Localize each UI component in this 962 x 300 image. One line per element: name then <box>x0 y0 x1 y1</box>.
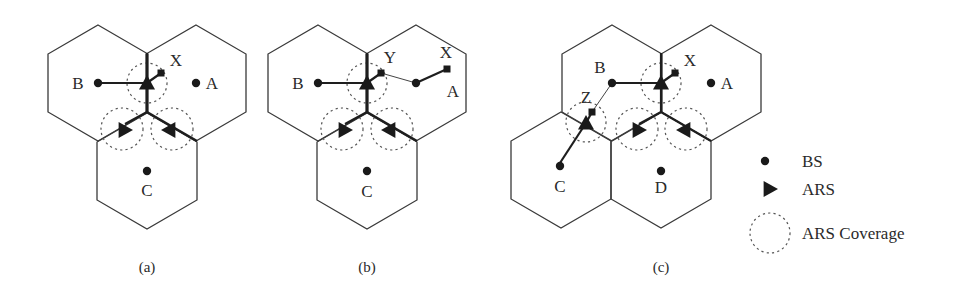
link-line <box>416 69 447 83</box>
coverage-circle-icon <box>750 213 790 253</box>
bs-dot-icon <box>608 79 616 87</box>
bs-label: A <box>721 74 734 93</box>
bs-label: C <box>361 182 372 201</box>
legend: BSARSARS Coverage <box>750 152 904 253</box>
bs-label: C <box>141 181 152 200</box>
ms-square-icon <box>158 70 165 77</box>
bs-label: C <box>554 177 565 196</box>
captions-group: (a)(b)(c) <box>139 259 670 276</box>
bs-label: A <box>447 82 460 101</box>
ms-square-icon <box>378 70 385 77</box>
link-line <box>639 112 661 124</box>
legend-item: BS <box>761 152 823 171</box>
legend-label: BS <box>802 152 823 171</box>
bs-dot-icon <box>707 79 715 87</box>
legend-item: ARS Coverage <box>750 213 904 253</box>
bs-label: D <box>655 178 667 197</box>
panels-group: BACXBACYXBACDXZ <box>48 25 761 229</box>
bs-label: B <box>292 74 303 93</box>
ms-square-icon <box>672 70 679 77</box>
panel-caption: (a) <box>139 259 156 276</box>
bs-dot-icon <box>94 79 102 87</box>
bs-dot-icon <box>761 157 769 165</box>
bs-dot-icon <box>192 79 200 87</box>
legend-label: ARS Coverage <box>802 224 904 243</box>
bs-label: A <box>206 74 219 93</box>
panel-a: BACX <box>48 25 246 229</box>
panel-b: BACYX <box>268 25 466 229</box>
ms-label: X <box>684 51 696 70</box>
legend-item: ARS <box>764 180 835 199</box>
bs-dot-icon <box>314 79 322 87</box>
ars-triangle-icon <box>764 181 778 197</box>
bs-dot-icon <box>143 167 151 175</box>
panel-c: BACDXZ <box>511 25 761 228</box>
relay-network-figure: BACXBACYXBACDXZ (a)(b)(c) BSARSARS Cover… <box>0 0 962 300</box>
ms-label: X <box>170 51 182 70</box>
bs-dot-icon <box>556 162 564 170</box>
bs-label: B <box>72 74 83 93</box>
panel-caption: (b) <box>358 259 376 276</box>
bs-dot-icon <box>657 167 665 175</box>
bs-dot-icon <box>412 79 420 87</box>
figure-canvas: BACXBACYXBACDXZ (a)(b)(c) BSARSARS Cover… <box>0 0 962 300</box>
ms-label: X <box>440 43 452 62</box>
link-line <box>592 83 612 112</box>
link-line <box>558 123 586 166</box>
ms-square-icon <box>444 66 451 73</box>
panel-caption: (c) <box>653 259 670 276</box>
ms-label: Z <box>581 88 591 107</box>
ms-square-icon <box>589 109 596 116</box>
ms-label: Y <box>384 48 396 67</box>
bs-dot-icon <box>363 167 371 175</box>
legend-label: ARS <box>802 180 835 199</box>
bs-label: B <box>594 58 605 77</box>
